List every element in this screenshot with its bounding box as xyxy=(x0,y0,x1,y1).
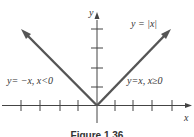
y-axis-arrow-icon xyxy=(95,12,100,19)
left-branch-label: y= −x, x<0 xyxy=(7,76,53,86)
abs-value-graph xyxy=(0,0,194,137)
x-axis-label: x xyxy=(184,113,188,123)
right-branch-line xyxy=(97,33,167,106)
function-label: y = |x| xyxy=(131,19,157,29)
figure-caption: Figure 1.36 xyxy=(0,130,194,137)
x-axis-arrow-icon xyxy=(185,103,192,108)
right-branch-label: y=x, x≥0 xyxy=(127,76,163,86)
y-axis-label: y xyxy=(89,8,93,18)
left-branch-line xyxy=(25,33,97,106)
